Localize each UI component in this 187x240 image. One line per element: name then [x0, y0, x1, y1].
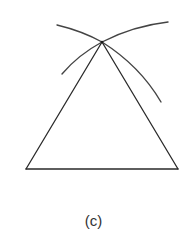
construction-arc-left — [57, 25, 102, 42]
triangle-right-side — [102, 42, 178, 169]
construction-arc-right-lower — [102, 42, 161, 102]
construction-arc-right — [102, 22, 168, 42]
construction-arc-left-lower — [62, 42, 102, 74]
triangle-construction-diagram — [0, 0, 187, 240]
figure-caption: (c) — [0, 212, 187, 230]
apex-point — [101, 41, 104, 44]
triangle-left-side — [26, 42, 102, 169]
